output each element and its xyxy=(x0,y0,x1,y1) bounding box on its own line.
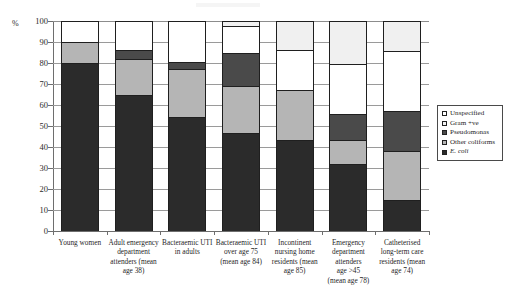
bar-segment-unspecified[interactable] xyxy=(168,21,206,62)
bar-4[interactable] xyxy=(222,21,260,231)
bar-segment-gram-ve[interactable] xyxy=(222,21,260,26)
bar-3[interactable] xyxy=(168,21,206,231)
y-tick-mark-100 xyxy=(48,21,53,22)
y-tick-mark-50 xyxy=(48,126,53,127)
x-tick-mark-5 xyxy=(322,231,323,235)
x-axis-label-line: long-term care xyxy=(365,247,439,256)
y-tick-label-30: 30 xyxy=(14,164,48,173)
x-axis-label-line: age 74) xyxy=(365,266,439,275)
x-tick-mark-3 xyxy=(214,231,215,235)
x-axis-label-line: age 38) xyxy=(97,266,171,275)
bar-segment-other-coliforms[interactable] xyxy=(383,151,421,199)
bar-segment-e-coli[interactable] xyxy=(222,133,260,231)
legend-label: Unspecified xyxy=(450,109,484,119)
y-tick-label-40: 40 xyxy=(14,143,48,152)
legend-label: Other coliforms xyxy=(450,138,495,148)
x-axis-line xyxy=(53,231,430,232)
bar-segment-unspecified[interactable] xyxy=(222,26,260,52)
bar-segment-e-coli[interactable] xyxy=(168,117,206,231)
bar-segment-pseudomonas[interactable] xyxy=(329,114,367,139)
bar-segment-other-coliforms[interactable] xyxy=(222,86,260,133)
y-tick-label-70: 70 xyxy=(14,80,48,89)
bar-segment-e-coli[interactable] xyxy=(329,164,367,231)
legend-label: Pseudomonas xyxy=(450,128,489,138)
legend-item-other-coliforms[interactable]: Other coliforms xyxy=(442,138,499,148)
legend-item-unspecified[interactable]: Unspecified xyxy=(442,109,499,119)
bar-segment-unspecified[interactable] xyxy=(329,64,367,114)
bar-7[interactable] xyxy=(383,21,421,231)
legend-swatch-icon xyxy=(442,130,447,135)
y-tick-label-90: 90 xyxy=(14,38,48,47)
x-tick-mark-7 xyxy=(429,231,430,235)
y-tick-mark-10 xyxy=(48,210,53,211)
y-tick-label-50: 50 xyxy=(14,122,48,131)
bar-segment-other-coliforms[interactable] xyxy=(276,90,314,139)
y-tick-label-10: 10 xyxy=(14,206,48,215)
bar-segment-other-coliforms[interactable] xyxy=(329,140,367,164)
legend-item-gram-ve[interactable]: Gram +ve xyxy=(442,119,499,129)
y-tick-label-80: 80 xyxy=(14,59,48,68)
bar-segment-unspecified[interactable] xyxy=(383,51,421,111)
bar-segment-pseudomonas[interactable] xyxy=(383,111,421,151)
x-axis-label-line: residents (mean xyxy=(365,257,439,266)
bar-segment-gram-ve[interactable] xyxy=(383,21,421,51)
bar-2[interactable] xyxy=(115,21,153,231)
plot-area xyxy=(53,21,429,231)
x-axis-label-line: Catheterised xyxy=(365,238,439,247)
x-tick-mark-0 xyxy=(53,231,54,235)
bar-segment-unspecified[interactable] xyxy=(115,21,153,50)
y-tick-label-20: 20 xyxy=(14,185,48,194)
x-tick-mark-6 xyxy=(375,231,376,235)
bar-segment-e-coli[interactable] xyxy=(383,200,421,232)
bar-segment-other-coliforms[interactable] xyxy=(61,42,99,63)
bar-segment-other-coliforms[interactable] xyxy=(168,69,206,116)
bar-segment-pseudomonas[interactable] xyxy=(115,50,153,58)
y-tick-mark-20 xyxy=(48,189,53,190)
chart-legend: UnspecifiedGram +vePseudomonasOther coli… xyxy=(437,105,503,161)
y-tick-mark-80 xyxy=(48,63,53,64)
bar-6[interactable] xyxy=(329,21,367,231)
legend-swatch-icon xyxy=(442,150,447,155)
legend-swatch-icon xyxy=(442,140,447,145)
bar-segment-e-coli[interactable] xyxy=(61,63,99,231)
y-tick-mark-30 xyxy=(48,168,53,169)
y-tick-mark-40 xyxy=(48,147,53,148)
bar-segment-gram-ve[interactable] xyxy=(276,21,314,50)
bar-segment-pseudomonas[interactable] xyxy=(222,53,260,87)
bar-segment-unspecified[interactable] xyxy=(276,50,314,90)
bar-1[interactable] xyxy=(61,21,99,231)
bar-segment-unspecified[interactable] xyxy=(61,21,99,42)
x-axis-label-line: attenders (mean xyxy=(97,257,171,266)
bar-segment-pseudomonas[interactable] xyxy=(168,62,206,69)
bar-segment-e-coli[interactable] xyxy=(276,140,314,231)
y-tick-label-0: 0 xyxy=(14,227,48,236)
x-tick-mark-1 xyxy=(107,231,108,235)
bar-segment-other-coliforms[interactable] xyxy=(115,59,153,95)
legend-label: Gram +ve xyxy=(450,119,479,129)
y-tick-mark-60 xyxy=(48,105,53,106)
legend-item-e-coli[interactable]: E. coli xyxy=(442,147,499,157)
y-tick-mark-90 xyxy=(48,42,53,43)
y-tick-label-100: 100 xyxy=(14,17,48,26)
y-tick-mark-70 xyxy=(48,84,53,85)
x-axis-label-7: Catheterisedlong-term careresidents (mea… xyxy=(365,238,439,276)
bar-segment-e-coli[interactable] xyxy=(115,95,153,232)
bar-segment-gram-ve[interactable] xyxy=(329,21,367,64)
bar-5[interactable] xyxy=(276,21,314,231)
x-tick-mark-2 xyxy=(160,231,161,235)
legend-swatch-icon xyxy=(442,111,447,116)
x-axis-label-line: (mean age 78) xyxy=(311,276,385,285)
legend-item-pseudomonas[interactable]: Pseudomonas xyxy=(442,128,499,138)
stacked-bar-chart-figure: % 1009080706050403020100 Young womenAdul… xyxy=(0,0,510,288)
legend-label: E. coli xyxy=(450,147,469,157)
scan-artifact xyxy=(196,3,260,7)
legend-swatch-icon xyxy=(442,121,447,126)
x-tick-mark-4 xyxy=(268,231,269,235)
y-tick-label-60: 60 xyxy=(14,101,48,110)
